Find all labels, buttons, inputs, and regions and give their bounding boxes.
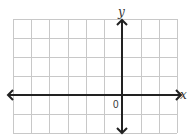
x-axis-label: x: [180, 88, 187, 102]
y-axis-label: y: [117, 5, 125, 19]
x-axis: [8, 90, 181, 100]
grid: [13, 19, 178, 134]
coordinate-plane: x y 0: [0, 0, 191, 137]
origin-label: 0: [113, 99, 119, 110]
